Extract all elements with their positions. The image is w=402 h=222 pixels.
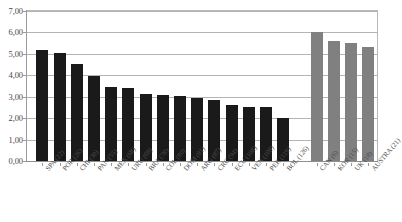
x-axis-labels: SPA (22)POR (26)CHI (30)PAN (55)MEX (68)… [27, 163, 377, 222]
x-axis-tick-mark [266, 163, 267, 166]
x-axis-tick-mark [351, 163, 352, 166]
y-axis-tick-label: 3,00 [9, 93, 23, 102]
x-axis-tick-mark [111, 163, 112, 166]
x-axis-tick-mark [197, 163, 198, 166]
bar-series-container [27, 11, 377, 161]
x-axis-tick-mark [180, 163, 181, 166]
bar [71, 64, 83, 162]
x-axis-tick-mark [368, 163, 369, 166]
x-axis-tick-mark [249, 163, 250, 166]
y-axis-tick-label: 2,00 [9, 114, 23, 123]
x-axis-tick-mark [146, 163, 147, 166]
bar [311, 32, 323, 161]
y-axis-tick-label: 0,00 [9, 157, 23, 166]
x-axis-tick-mark [283, 163, 284, 166]
plot-area [27, 11, 377, 161]
bar [345, 43, 357, 161]
y-axis-tick-label: 5,00 [9, 50, 23, 59]
x-axis-tick-mark [77, 163, 78, 166]
bar [328, 41, 340, 161]
y-axis-tick-label: 6,00 [9, 28, 23, 37]
x-axis-tick-mark [94, 163, 95, 166]
bar [36, 50, 48, 161]
y-axis-tick-label: 1,00 [9, 136, 23, 145]
x-axis-tick-mark [60, 163, 61, 166]
bar [54, 53, 66, 161]
x-axis-tick-mark [42, 163, 43, 166]
bar [362, 47, 374, 161]
x-axis-tick-mark [317, 163, 318, 166]
x-axis-tick-mark [128, 163, 129, 166]
y-axis-tick-label: 4,00 [9, 71, 23, 80]
y-axis: 0,001,002,003,004,005,006,007,00 [0, 0, 26, 222]
x-axis-tick-mark [232, 163, 233, 166]
x-axis-tick-mark [163, 163, 164, 166]
y-axis-tick-label: 7,00 [9, 7, 23, 16]
x-axis-tick-mark [214, 163, 215, 166]
x-axis-tick-mark [334, 163, 335, 166]
